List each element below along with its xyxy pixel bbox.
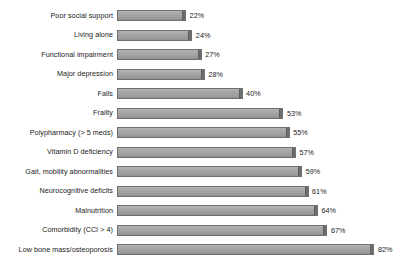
- bar-value-label: 57%: [299, 148, 314, 157]
- bar: [117, 186, 309, 197]
- bar: [117, 88, 243, 99]
- bar-row: Living alone24%: [0, 26, 396, 46]
- bar-row: Low bone mass/osteoporosis82%: [0, 240, 396, 260]
- category-label: Frailty: [0, 109, 113, 117]
- bar-end-cap: [314, 206, 317, 215]
- bar: [117, 69, 205, 80]
- bar-value-label: 61%: [312, 187, 327, 196]
- bar-row: Malnutrition64%: [0, 201, 396, 221]
- bar-value-label: 64%: [321, 206, 336, 215]
- category-label: Low bone mass/osteoporosis: [0, 246, 113, 254]
- bar-value-label: 82%: [378, 245, 393, 254]
- chart-plot-area: Poor social support22%Living alone24%Fun…: [0, 6, 396, 260]
- bar-row: Functional impairment27%: [0, 45, 396, 65]
- bar-end-cap: [279, 109, 282, 118]
- bar-row: Neurocognitive deficits61%: [0, 182, 396, 202]
- bar-track: 24%: [113, 26, 396, 46]
- bar-row: Major depression28%: [0, 65, 396, 85]
- bar-end-cap: [286, 128, 289, 137]
- bar: [117, 225, 327, 236]
- bar-track: 67%: [113, 221, 396, 241]
- bar: [117, 127, 290, 138]
- bar-track: 27%: [113, 45, 396, 65]
- bar: [117, 147, 296, 158]
- category-label: Functional impairment: [0, 51, 113, 59]
- bar-track: 28%: [113, 65, 396, 85]
- category-label: Malnutrition: [0, 207, 113, 215]
- bar-value-label: 67%: [331, 226, 346, 235]
- bar-end-cap: [305, 187, 308, 196]
- bar-value-label: 28%: [208, 70, 223, 79]
- bar-value-label: 59%: [306, 167, 321, 176]
- bar-end-cap: [292, 148, 295, 157]
- bar-row: Vitamin D deficiency57%: [0, 143, 396, 163]
- category-label: Comorbidity (CCI > 4): [0, 226, 113, 234]
- bar-value-label: 55%: [293, 128, 308, 137]
- bar: [117, 166, 302, 177]
- category-label: Falls: [0, 90, 113, 98]
- bar-end-cap: [370, 245, 373, 254]
- category-label: Vitamin D deficiency: [0, 148, 113, 156]
- bar-value-label: 27%: [205, 50, 220, 59]
- bar-row: Gait, mobility abnormalities59%: [0, 162, 396, 182]
- bar-end-cap: [239, 89, 242, 98]
- bar-track: 64%: [113, 201, 396, 221]
- bar: [117, 30, 192, 41]
- category-label: Poor social support: [0, 12, 113, 20]
- category-label: Gait, mobility abnormalities: [0, 168, 113, 176]
- bar-value-label: 24%: [196, 31, 211, 40]
- category-label: Major depression: [0, 70, 113, 78]
- bar-track: 55%: [113, 123, 396, 143]
- bar-track: 53%: [113, 104, 396, 124]
- bar-value-label: 53%: [287, 109, 302, 118]
- category-label: Polypharmacy (> 5 meds): [0, 129, 113, 137]
- horizontal-bar-chart: Poor social support22%Living alone24%Fun…: [0, 0, 396, 262]
- bar-track: 22%: [113, 6, 396, 26]
- category-label: Neurocognitive deficits: [0, 187, 113, 195]
- bar-track: 59%: [113, 162, 396, 182]
- bar: [117, 49, 202, 60]
- bar-row: Poor social support22%: [0, 6, 396, 26]
- bar-row: Falls40%: [0, 84, 396, 104]
- bar: [117, 10, 186, 21]
- bar-row: Frailty53%: [0, 104, 396, 124]
- bar-row: Polypharmacy (> 5 meds)55%: [0, 123, 396, 143]
- bar-track: 61%: [113, 182, 396, 202]
- bar-end-cap: [323, 226, 326, 235]
- bar-track: 82%: [113, 240, 396, 260]
- bar-end-cap: [188, 31, 191, 40]
- bar-track: 57%: [113, 143, 396, 163]
- bar-end-cap: [182, 11, 185, 20]
- bar: [117, 244, 374, 255]
- bar-row: Comorbidity (CCI > 4)67%: [0, 221, 396, 241]
- bar-value-label: 40%: [246, 89, 261, 98]
- bar-track: 40%: [113, 84, 396, 104]
- bar-end-cap: [298, 167, 301, 176]
- bar-end-cap: [201, 70, 204, 79]
- bar: [117, 108, 283, 119]
- category-label: Living alone: [0, 31, 113, 39]
- bar: [117, 205, 318, 216]
- bar-value-label: 22%: [190, 11, 205, 20]
- bar-end-cap: [198, 50, 201, 59]
